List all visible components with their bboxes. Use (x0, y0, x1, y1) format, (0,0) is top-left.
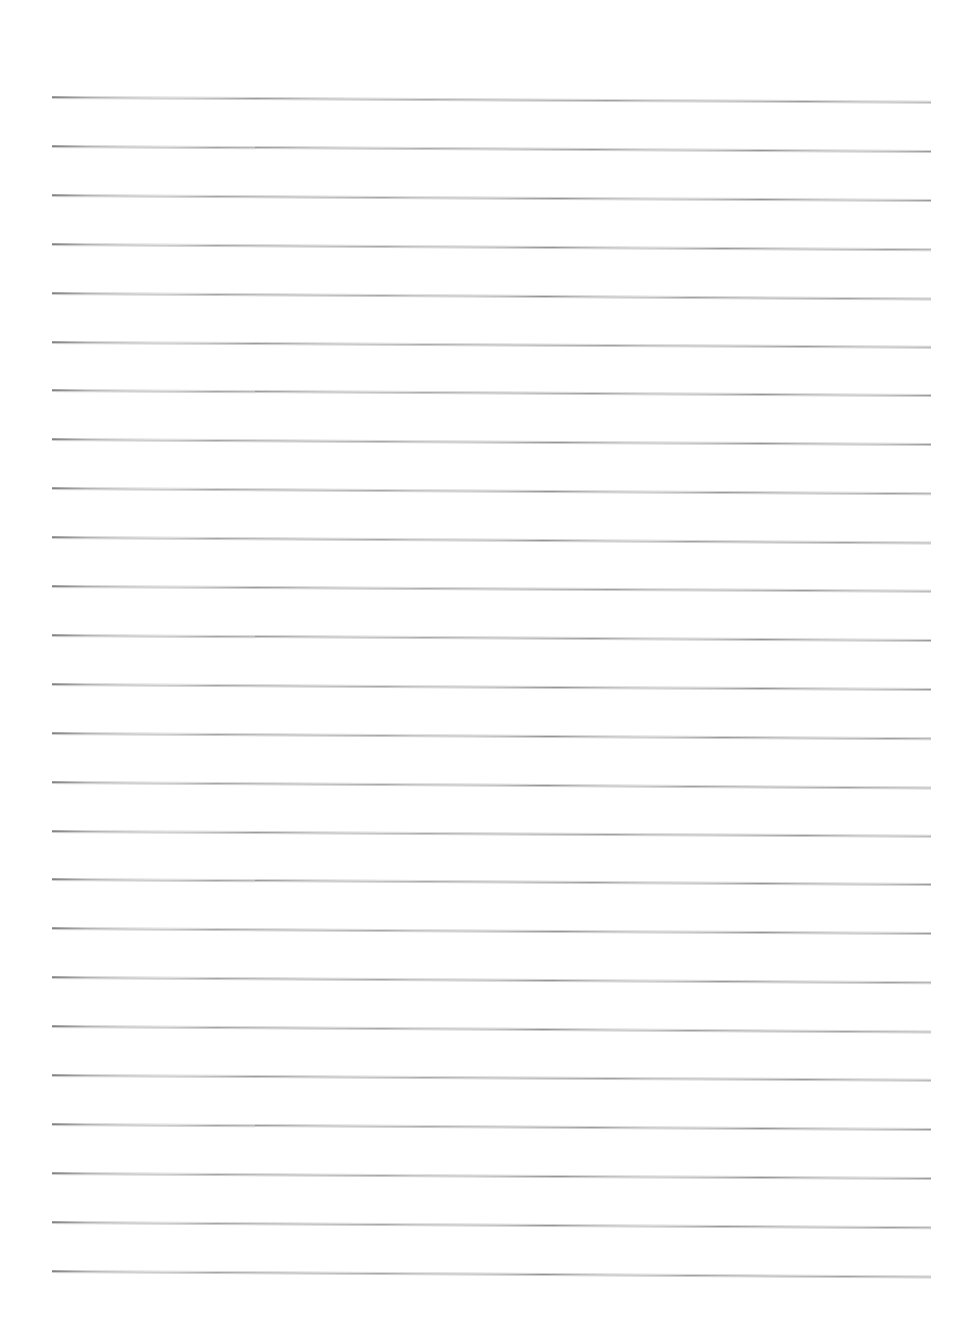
ruled-line-scan-fade (52, 732, 931, 740)
ruled-line (52, 878, 931, 886)
ruled-line-scan-fade (52, 927, 931, 935)
ruled-line-scan-fade (52, 438, 931, 446)
ruled-line-start-ink (52, 389, 86, 392)
ruled-line-start-ink (52, 1221, 86, 1224)
ruled-line (52, 389, 931, 397)
ruled-line-stroke (52, 635, 931, 641)
ruled-line (52, 1172, 931, 1180)
ruled-line-scan-fade (52, 145, 931, 153)
ruled-line-stroke (52, 733, 931, 739)
ruled-line-start-ink (52, 1025, 86, 1028)
ruled-line (52, 781, 931, 789)
ruled-line-scan-fade (52, 292, 931, 300)
ruled-line (52, 536, 931, 544)
ruled-line (52, 585, 931, 593)
ruled-line (52, 1270, 931, 1278)
ruled-line-scan-fade (52, 634, 931, 642)
ruled-line-start-ink (52, 341, 86, 344)
ruled-line-start-ink (52, 292, 86, 295)
ruled-line-scan-fade (52, 487, 931, 495)
ruled-line-stroke (52, 537, 931, 543)
ruled-line-stroke (52, 1222, 931, 1228)
ruled-line-stroke (52, 195, 931, 201)
ruled-line-scan-fade (52, 683, 931, 691)
ruled-line (52, 732, 931, 740)
ruled-line (52, 145, 931, 153)
ruled-line (52, 1123, 931, 1131)
ruled-line-stroke (52, 977, 931, 983)
ruled-line-scan-fade (52, 1172, 931, 1180)
ruled-line-scan-fade (52, 243, 931, 251)
ruled-line-scan-fade (52, 194, 931, 202)
ruled-line-stroke (52, 684, 931, 690)
ruled-line-start-ink (52, 243, 86, 246)
ruled-line-start-ink (52, 487, 86, 490)
ruled-line-stroke (52, 928, 931, 934)
ruled-line-scan-fade (52, 389, 931, 397)
ruled-line-scan-fade (52, 96, 931, 104)
ruled-line-start-ink (52, 536, 86, 539)
ruled-line-start-ink (52, 1123, 86, 1126)
ruled-line-scan-fade (52, 781, 931, 789)
ruled-line-stroke (52, 244, 931, 250)
ruled-line-stroke (52, 782, 931, 788)
ruled-line-scan-fade (52, 1270, 931, 1278)
ruled-line-stroke (52, 390, 931, 396)
ruled-line-scan-fade (52, 536, 931, 544)
ruled-line-scan-fade (52, 1123, 931, 1131)
ruled-line-start-ink (52, 96, 86, 99)
ruled-line (52, 976, 931, 984)
ruled-line (52, 1025, 931, 1033)
ruled-line-start-ink (52, 634, 86, 637)
ruled-line-start-ink (52, 1270, 86, 1273)
ruled-line-start-ink (52, 438, 86, 441)
ruled-line (52, 830, 931, 838)
ruled-line-stroke (52, 1026, 931, 1032)
ruled-line (52, 341, 931, 349)
ruled-line-start-ink (52, 683, 86, 686)
ruled-line (52, 487, 931, 495)
ruled-line (52, 1221, 931, 1229)
ruled-line-stroke (52, 97, 931, 103)
ruled-line-start-ink (52, 878, 86, 881)
ruled-line-start-ink (52, 976, 86, 979)
ruled-line-start-ink (52, 145, 86, 148)
ruled-line-stroke (52, 831, 931, 837)
ruled-line-start-ink (52, 1074, 86, 1077)
ruled-line-stroke (52, 439, 931, 445)
ruled-line-scan-fade (52, 878, 931, 886)
ruled-line-start-ink (52, 194, 86, 197)
ruled-line-start-ink (52, 830, 86, 833)
ruled-line (52, 194, 931, 202)
ruled-line-stroke (52, 879, 931, 885)
ruled-line-scan-fade (52, 1074, 931, 1082)
ruled-line-start-ink (52, 585, 86, 588)
ruled-line (52, 683, 931, 691)
ruled-line (52, 96, 931, 104)
ruled-line-scan-fade (52, 1025, 931, 1033)
ruled-line-scan-fade (52, 585, 931, 593)
ruled-line-scan-fade (52, 1221, 931, 1229)
ruled-line-stroke (52, 586, 931, 592)
ruled-line-stroke (52, 342, 931, 348)
ruled-line (52, 243, 931, 251)
ruled-line-stroke (52, 1271, 931, 1277)
ruled-line-stroke (52, 1173, 931, 1179)
ruled-line-start-ink (52, 732, 86, 735)
ruled-line-stroke (52, 1124, 931, 1130)
ruled-line-stroke (52, 293, 931, 299)
ruled-line-start-ink (52, 1172, 86, 1175)
ruled-line-start-ink (52, 781, 86, 784)
ruled-line (52, 634, 931, 642)
ruled-line (52, 438, 931, 446)
ruled-line-start-ink (52, 927, 86, 930)
scanned-page (0, 0, 968, 1327)
ruled-line-stroke (52, 488, 931, 494)
ruled-line (52, 292, 931, 300)
ruled-line-stroke (52, 1075, 931, 1081)
ruled-line-scan-fade (52, 830, 931, 838)
ruled-line-stroke (52, 146, 931, 152)
ruled-line-scan-fade (52, 341, 931, 349)
ruled-line-scan-fade (52, 976, 931, 984)
ruled-line (52, 1074, 931, 1082)
